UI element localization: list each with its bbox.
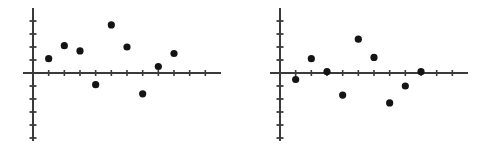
data-point — [339, 92, 346, 99]
data-points-left — [45, 21, 178, 97]
data-point — [323, 68, 330, 75]
data-point — [123, 43, 130, 50]
data-point — [92, 81, 99, 88]
residual-plot-right — [247, 0, 494, 147]
data-point — [61, 42, 68, 49]
ticks-right — [277, 21, 453, 138]
data-point — [417, 68, 424, 75]
axes-right — [270, 8, 468, 141]
data-point — [139, 90, 146, 97]
data-point — [308, 55, 315, 62]
residual-plot-left — [0, 0, 247, 147]
data-point — [370, 54, 377, 61]
data-point — [155, 63, 162, 70]
data-point — [170, 50, 177, 57]
data-point — [355, 36, 362, 43]
data-point — [76, 47, 83, 54]
axes-left — [23, 8, 221, 141]
data-point — [386, 99, 393, 106]
figure-canvas — [0, 0, 494, 147]
data-point — [402, 82, 409, 89]
ticks-left — [30, 21, 206, 138]
data-point — [45, 55, 52, 62]
residual-plot-left-svg — [0, 0, 247, 147]
data-point — [292, 76, 299, 83]
data-point — [108, 21, 115, 28]
residual-plot-right-svg — [247, 0, 494, 147]
